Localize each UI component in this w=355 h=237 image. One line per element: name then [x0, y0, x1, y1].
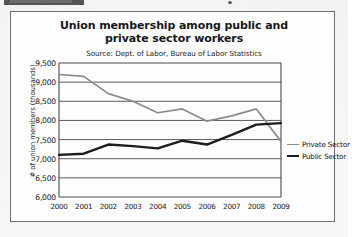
- y-axis-tick-label: 6,000: [16, 193, 56, 202]
- x-axis-tick-label: 2009: [268, 202, 294, 211]
- chart-container: Union membership among public and privat…: [10, 11, 335, 222]
- x-axis-tick-labels: 2000200120022003200420052006200720082009: [59, 202, 281, 214]
- series-line: [59, 74, 281, 141]
- x-axis-tick-label: 2008: [243, 202, 269, 211]
- y-axis-tick-labels: 6,0006,5007,0007,5008,0008,5009,0009,500: [11, 63, 56, 197]
- x-axis-tick-label: 2002: [95, 202, 121, 211]
- y-axis-tick-label: 7,500: [16, 135, 56, 144]
- chart-title: Union membership among public and privat…: [37, 20, 311, 45]
- legend-color-swatch: [287, 144, 299, 145]
- x-axis-tick-label: 2004: [145, 202, 171, 211]
- x-axis-tick-label: 2006: [194, 202, 220, 211]
- y-axis-tick-label: 8,000: [16, 116, 56, 125]
- x-axis-tick-label: 2003: [120, 202, 146, 211]
- legend-item[interactable]: Public Sector: [287, 150, 355, 162]
- legend-item[interactable]: Private Sector: [287, 138, 355, 150]
- y-axis-tick-label: 7,000: [16, 154, 56, 163]
- x-axis-tick-label: 2000: [46, 202, 72, 211]
- y-axis-tick-label: 6,500: [16, 173, 56, 182]
- legend-label: Public Sector: [302, 152, 346, 161]
- legend-color-swatch: [287, 155, 299, 157]
- y-axis-tick-label: 8,500: [16, 97, 56, 106]
- scan-artifact-bar-inner: [10, 0, 72, 3]
- y-axis-tick-label: 9,500: [16, 59, 56, 68]
- y-axis-tick-label: 9,000: [16, 78, 56, 87]
- chart-plot-svg: [59, 63, 281, 197]
- x-axis-tick-label: 2005: [169, 202, 195, 211]
- data-series-layer: [59, 74, 281, 154]
- x-axis-tick-label: 2007: [219, 202, 245, 211]
- plot-area: [59, 63, 281, 197]
- chart-source-note: Source: Dept. of Labor, Bureau of Labor …: [37, 49, 311, 58]
- chart-legend: Private SectorPublic Sector: [287, 138, 355, 162]
- legend-label: Private Sector: [302, 140, 350, 149]
- scan-artifact-speck: [228, 1, 232, 4]
- series-line: [59, 123, 281, 155]
- x-axis-tick-label: 2001: [71, 202, 97, 211]
